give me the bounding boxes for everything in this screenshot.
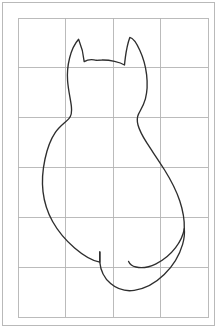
template-page bbox=[0, 0, 220, 332]
cat-template-canvas bbox=[0, 0, 220, 332]
outer-frame bbox=[3, 3, 215, 326]
